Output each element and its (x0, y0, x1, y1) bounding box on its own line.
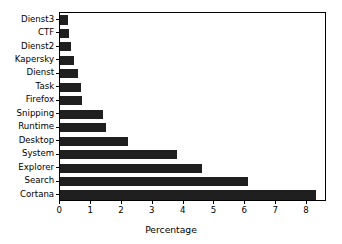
bar-row (60, 188, 325, 201)
x-tick-label: 7 (265, 206, 285, 215)
bar (60, 83, 80, 92)
x-tick-mark (59, 201, 60, 204)
y-tick-mark (56, 154, 59, 155)
bar (60, 56, 74, 65)
y-tick-mark (56, 100, 59, 101)
bar-row (60, 94, 325, 107)
bar (60, 177, 248, 186)
x-tick-mark (183, 201, 184, 204)
y-tick-label: Desktop (19, 136, 54, 145)
y-tick-mark (56, 181, 59, 182)
y-tick-mark (56, 167, 59, 168)
x-tick-label: 6 (234, 206, 254, 215)
y-tick-label: Dienst (27, 68, 55, 77)
y-tick-label: Runtime (18, 122, 54, 131)
bar-row (60, 81, 325, 94)
x-axis-title: Percentage (0, 224, 342, 235)
bar-row (60, 175, 325, 188)
bar (60, 137, 128, 146)
y-tick-mark (56, 73, 59, 74)
bar (60, 42, 71, 51)
x-tick-label: 3 (142, 206, 162, 215)
x-tick-label: 4 (173, 206, 193, 215)
plot-area (59, 12, 326, 200)
bar-row (60, 107, 325, 120)
x-tick-mark (244, 201, 245, 204)
x-tick-label: 0 (49, 206, 69, 215)
y-tick-mark (56, 194, 59, 195)
bar-row (60, 27, 325, 40)
bar-row (60, 134, 325, 147)
y-tick-label: Dienst2 (21, 42, 54, 51)
bar (60, 96, 81, 105)
y-tick-label: Search (25, 176, 55, 185)
y-tick-label: Firefox (26, 95, 54, 104)
y-tick-label: System (22, 149, 54, 158)
bar (60, 110, 102, 119)
y-tick-label: Task (36, 82, 55, 91)
x-tick-mark (152, 201, 153, 204)
x-tick-label: 2 (111, 206, 131, 215)
x-tick-label: 5 (203, 206, 223, 215)
y-tick-mark (56, 140, 59, 141)
x-tick-mark (306, 201, 307, 204)
x-tick-label: 8 (296, 206, 316, 215)
bar (60, 190, 316, 199)
y-tick-mark (56, 59, 59, 60)
bar-row (60, 161, 325, 174)
bar (60, 164, 202, 173)
y-tick-label: Snipping (17, 109, 55, 118)
y-tick-mark (56, 86, 59, 87)
x-tick-mark (275, 201, 276, 204)
y-tick-label: Explorer (18, 163, 54, 172)
bar-row (60, 148, 325, 161)
bar-row (60, 67, 325, 80)
bar-row (60, 54, 325, 67)
bar-chart-figure: Dienst3CTFDienst2KaperskyDienstTaskFiref… (0, 0, 342, 244)
bar (60, 29, 68, 38)
y-tick-mark (56, 113, 59, 114)
bar (60, 123, 106, 132)
y-tick-label: Dienst3 (21, 15, 54, 24)
y-tick-mark (56, 19, 59, 20)
bar (60, 15, 68, 24)
bar-row (60, 13, 325, 26)
bar (60, 69, 77, 78)
bar-row (60, 40, 325, 53)
y-tick-label: Kapersky (15, 55, 54, 64)
bars-layer (60, 13, 325, 199)
y-tick-mark (56, 32, 59, 33)
x-tick-mark (121, 201, 122, 204)
bar-row (60, 121, 325, 134)
y-tick-mark (56, 127, 59, 128)
y-tick-mark (56, 46, 59, 47)
x-tick-mark (213, 201, 214, 204)
x-tick-label: 1 (80, 206, 100, 215)
bar (60, 150, 177, 159)
x-tick-mark (90, 201, 91, 204)
y-tick-label: CTF (38, 28, 54, 37)
y-tick-label: Cortana (20, 190, 54, 199)
